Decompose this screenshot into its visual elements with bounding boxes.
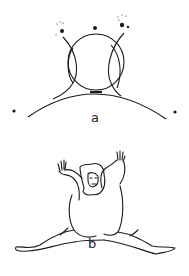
star-dot	[12, 109, 15, 112]
left-leg	[16, 230, 75, 251]
right-curve	[109, 33, 124, 96]
star-dot	[60, 29, 64, 33]
left-hand	[58, 160, 66, 171]
figure-b: b	[0, 140, 189, 276]
star-dot	[127, 26, 129, 28]
face-features	[90, 178, 97, 184]
figure-a-label: a	[91, 110, 99, 125]
star-dot	[120, 23, 124, 27]
stars	[12, 14, 176, 113]
right-arm	[101, 160, 117, 188]
left-arm	[59, 171, 79, 200]
right-leg	[104, 232, 175, 254]
torso-right	[104, 186, 123, 235]
figure-a: a	[0, 0, 189, 140]
star-dot	[173, 110, 176, 113]
torso-left	[69, 195, 96, 237]
figure-b-label: b	[88, 236, 96, 251]
figure-b-drawing	[0, 140, 189, 276]
star-dot	[93, 26, 97, 30]
face	[88, 173, 98, 187]
right-hand	[117, 151, 125, 162]
